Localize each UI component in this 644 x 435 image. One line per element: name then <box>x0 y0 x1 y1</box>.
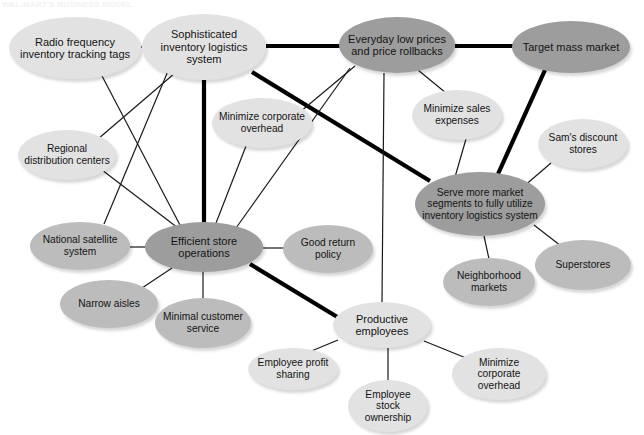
node-label-good_return: Good return policy <box>289 237 367 260</box>
node-productive_emp[interactable]: Productive employees <box>333 302 431 348</box>
node-label-everyday_low: Everyday low prices and price rollbacks <box>345 33 449 58</box>
node-sophisticated[interactable]: Sophisticated inventory logistics system <box>142 14 266 80</box>
edge-efficient_store-to-narrow_aisles <box>142 268 172 288</box>
node-label-superstores: Superstores <box>541 259 625 271</box>
node-radio_tags[interactable]: Radio frequency inventory tracking tags <box>9 17 141 79</box>
edge-serve_more-to-neighborhood <box>484 236 489 259</box>
node-neighborhood[interactable]: Neighborhood markets <box>443 258 535 306</box>
node-superstores[interactable]: Superstores <box>535 240 631 290</box>
node-emp_stock[interactable]: Employee stock ownership <box>348 380 428 432</box>
node-label-min_corp_top: Minimize corporate overhead <box>218 111 306 134</box>
diagram-canvas: WAL-MART'S BUSINESS MODEL Radio frequenc… <box>0 0 644 435</box>
node-sams[interactable]: Sam's discount stores <box>538 119 628 169</box>
edge-min_corp_top-to-efficient_store <box>216 146 246 223</box>
node-min_corp_top[interactable]: Minimize corporate overhead <box>212 98 312 148</box>
node-label-productive_emp: Productive employees <box>339 313 425 338</box>
node-label-minimal_cust: Minimal customer service <box>161 311 245 334</box>
edge-everyday_low-to-efficient_store <box>236 68 350 228</box>
node-min_sales[interactable]: Minimize sales expenses <box>412 90 502 140</box>
node-label-national_sat: National satellite system <box>36 234 124 257</box>
node-label-target_mass: Target mass market <box>518 41 624 53</box>
node-label-efficient_store: Efficient store operations <box>151 235 257 260</box>
node-emp_profit[interactable]: Employee profit sharing <box>248 348 338 390</box>
edge-everyday_low-to-productive_emp <box>382 73 384 302</box>
node-label-sams: Sam's discount stores <box>544 132 622 155</box>
node-label-radio_tags: Radio frequency inventory tracking tags <box>15 36 135 61</box>
node-national_sat[interactable]: National satellite system <box>30 222 130 270</box>
node-label-emp_stock: Employee stock ownership <box>354 389 422 424</box>
node-label-serve_more: Serve more market segments to fully util… <box>421 187 539 222</box>
edge-min_sales-to-serve_more <box>455 139 466 177</box>
node-label-emp_profit: Employee profit sharing <box>254 357 332 380</box>
node-label-regional: Regional distribution centers <box>24 143 110 166</box>
node-narrow_aisles[interactable]: Narrow aisles <box>60 280 158 328</box>
node-minimal_cust[interactable]: Minimal customer service <box>155 298 251 348</box>
node-target_mass[interactable]: Target mass market <box>512 21 630 73</box>
node-serve_more[interactable]: Serve more market segments to fully util… <box>415 172 545 236</box>
edge-everyday_low-to-min_sales <box>418 70 446 93</box>
node-label-min_corp_bottom: Minimize corporate overhead <box>458 357 540 392</box>
node-efficient_store[interactable]: Efficient store operations <box>145 222 263 272</box>
node-label-min_sales: Minimize sales expenses <box>418 103 496 126</box>
node-label-narrow_aisles: Narrow aisles <box>66 298 152 310</box>
node-label-sophisticated: Sophisticated inventory logistics system <box>148 28 260 65</box>
edge-productive_emp-to-min_corp_bottom <box>424 341 466 358</box>
node-min_corp_bottom[interactable]: Minimize corporate overhead <box>452 348 546 400</box>
node-everyday_low[interactable]: Everyday low prices and price rollbacks <box>339 17 455 73</box>
node-regional[interactable]: Regional distribution centers <box>18 130 116 180</box>
node-good_return[interactable]: Good return policy <box>283 225 373 273</box>
node-label-neighborhood: Neighborhood markets <box>449 270 529 293</box>
edge-target_mass-to-serve_more <box>498 70 545 174</box>
